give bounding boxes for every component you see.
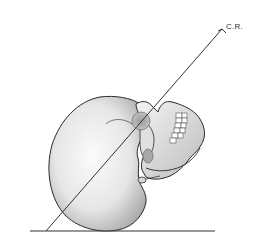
skull-positioning-diagram: C.R. bbox=[0, 0, 254, 249]
diagram-canvas bbox=[0, 0, 254, 249]
central-ray-label: C.R. bbox=[226, 22, 243, 31]
mandibular-condyle bbox=[143, 149, 153, 163]
